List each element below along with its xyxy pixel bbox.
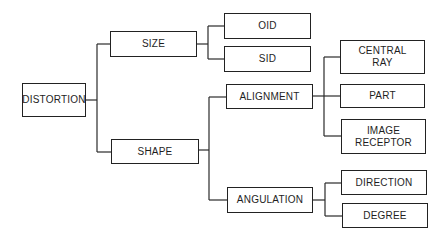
- node-label: OID: [258, 20, 276, 32]
- node-label: ALIGNMENT: [239, 91, 299, 103]
- node-angulation: ANGULATION: [227, 187, 313, 213]
- node-oid: OID: [224, 13, 311, 39]
- node-label: DISTORTION: [22, 94, 85, 106]
- node-direction: DIRECTION: [341, 170, 427, 195]
- node-label: SIZE: [142, 38, 165, 50]
- node-label: SID: [259, 53, 276, 65]
- node-label: CENTRAL RAY: [355, 45, 410, 69]
- node-shape: SHAPE: [111, 139, 199, 164]
- node-label: PART: [369, 90, 396, 102]
- node-image-receptor: IMAGE RECEPTOR: [341, 119, 426, 154]
- node-label: IMAGE RECEPTOR: [354, 125, 413, 149]
- node-alignment: ALIGNMENT: [226, 84, 313, 109]
- node-label: ANGULATION: [237, 194, 303, 206]
- node-part: PART: [340, 84, 425, 108]
- node-central-ray: CENTRAL RAY: [340, 40, 425, 74]
- node-label: SHAPE: [138, 146, 173, 158]
- node-label: DIRECTION: [356, 177, 413, 189]
- node-distortion: DISTORTION: [22, 83, 86, 117]
- distortion-tree-diagram: DISTORTION SIZE SHAPE OID SID ALIGNMENT …: [0, 0, 448, 241]
- node-degree: DEGREE: [342, 203, 428, 228]
- node-size: SIZE: [110, 31, 197, 57]
- node-sid: SID: [224, 46, 311, 72]
- node-label: DEGREE: [363, 210, 406, 222]
